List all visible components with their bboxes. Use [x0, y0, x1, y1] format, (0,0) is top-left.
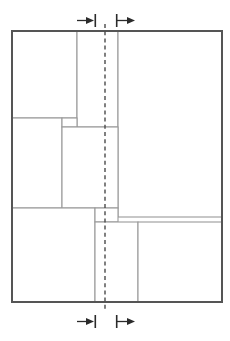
partition-cell-mid-middle: [62, 127, 118, 208]
partition-cell-mid-notch: [62, 118, 77, 127]
arrow-head-right-icon: [86, 318, 94, 325]
dimension-marker-top-right: [117, 14, 135, 27]
partition-cell-bottom-left: [12, 208, 95, 302]
dimension-marker-bottom-right: [117, 315, 135, 328]
dimension-marker-bottom-left: [77, 315, 95, 328]
partition-cell-right-large: [118, 31, 222, 217]
arrow-head-right-icon: [127, 17, 135, 24]
partition-cell-mid-left: [12, 118, 62, 208]
partition-diagram: [0, 0, 230, 341]
arrow-head-right-icon: [127, 318, 135, 325]
dimension-marker-top-left: [77, 14, 95, 27]
partition-cell-top-left: [12, 31, 77, 118]
partition-cell-top-middle: [77, 31, 118, 127]
arrow-head-right-icon: [86, 17, 94, 24]
partition-cell-bottom-right: [138, 222, 222, 302]
partition-cell-bottom-middle: [95, 222, 138, 302]
partition-cell-bottom-notch: [95, 208, 118, 222]
diagram-root: [0, 0, 230, 341]
